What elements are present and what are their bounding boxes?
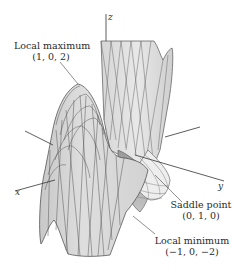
local-min-annotation: Local minimum (−1, 0, −2) xyxy=(150,235,234,257)
saddle-label: Saddle point xyxy=(168,199,234,210)
local-min-label: Local minimum xyxy=(150,235,234,246)
local-max-label: Local maximum xyxy=(14,40,88,51)
local-max-annotation: Local maximum (1, 0, 2) xyxy=(14,40,88,62)
local-min-coords: (−1, 0, −2) xyxy=(150,246,234,257)
local-max-coords: (1, 0, 2) xyxy=(14,51,88,62)
saddle-coords: (0, 1, 0) xyxy=(168,210,234,221)
x-axis-label: x xyxy=(15,187,20,197)
z-axis-label: z xyxy=(108,12,113,22)
saddle-annotation: Saddle point (0, 1, 0) xyxy=(168,199,234,221)
y-axis-label: y xyxy=(218,181,223,191)
